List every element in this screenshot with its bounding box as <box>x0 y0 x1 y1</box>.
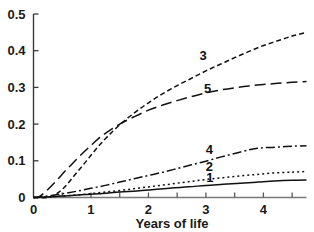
x-tick-label: 4 <box>260 202 268 217</box>
y-tick-label: 0.5 <box>7 7 25 22</box>
y-tick-label: 0.4 <box>7 43 26 58</box>
curve-series-5 <box>34 82 307 198</box>
y-tick-label: 0.2 <box>7 117 25 132</box>
y-tick-label: 0.1 <box>7 153 25 168</box>
line-chart: 00.10.20.30.40.5 01234 35421 Years of li… <box>0 0 314 232</box>
y-tick-label: 0.3 <box>7 80 25 95</box>
curve-label-5: 5 <box>204 81 211 96</box>
x-tick-label: 3 <box>202 202 209 217</box>
curve-series-3 <box>34 32 307 197</box>
curve-label-4: 4 <box>206 142 214 157</box>
data-curves <box>34 32 307 197</box>
curve-label-3: 3 <box>199 48 206 63</box>
x-axis-title: Years of life <box>136 216 209 231</box>
x-tick-label: 2 <box>145 202 152 217</box>
plot-area: 00.10.20.30.40.5 01234 35421 Years of li… <box>0 0 314 232</box>
curve-series-4 <box>34 146 307 198</box>
curve-label-1: 1 <box>206 170 213 185</box>
y-tick-label: 0 <box>18 190 25 205</box>
x-tick-label: 1 <box>87 202 94 217</box>
y-axis: 00.10.20.30.40.5 <box>7 7 38 206</box>
curve-series-1 <box>34 180 307 198</box>
x-tick-label: 0 <box>30 202 37 217</box>
